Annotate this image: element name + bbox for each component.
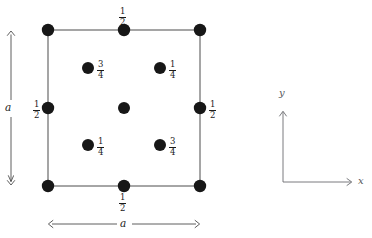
axes-legend [280,111,352,185]
height-label-edge-mid-top: 1 2 [119,7,126,27]
lattice-dot-edge-mid-right [194,102,206,114]
height-label-interior-lower-left: 1 4 [97,137,104,157]
lattice-dot-interior-upper-left [82,62,94,74]
lattice-dot-center [118,102,130,114]
lattice-dot-edge-mid-left [42,102,54,114]
lattice-points [42,24,206,192]
lattice-dot-corner-top-right [194,24,206,36]
lattice-dot-interior-lower-right [154,139,166,151]
height-label-interior-upper-right: 1 4 [169,60,176,80]
axis-label-y: y [279,88,285,98]
lattice-dot-corner-bottom-left [42,180,54,192]
height-label-edge-mid-bottom: 1 2 [119,193,126,213]
axis-label-x: x [358,176,364,186]
dimension-label-vertical: a [5,102,11,113]
height-label-interior-lower-right: 3 4 [169,137,176,157]
height-label-edge-mid-right: 1 2 [209,100,216,120]
height-label-edge-mid-left: 1 2 [33,100,40,120]
lattice-dot-edge-mid-bottom [118,180,130,192]
lattice-dot-interior-upper-right [154,62,166,74]
figure-canvas: 1 2 1 2 1 2 1 2 3 4 1 4 [0,0,372,238]
dimension-label-horizontal: a [120,218,126,229]
diagram-svg [0,0,372,238]
lattice-dot-corner-bottom-right [194,180,206,192]
lattice-dot-interior-lower-left [82,139,94,151]
lattice-dot-corner-top-left [42,24,54,36]
height-label-interior-upper-left: 3 4 [97,60,104,80]
